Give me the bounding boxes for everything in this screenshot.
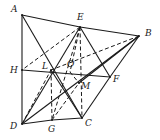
segment-ae	[22, 15, 80, 27]
vertex-b	[138, 35, 140, 37]
label-l: L	[41, 61, 48, 71]
segment-gm	[52, 83, 79, 120]
vertex-m	[78, 82, 80, 84]
segment-lc	[51, 70, 82, 118]
diagram-canvas: A E B H L O F M D G C	[0, 0, 160, 140]
segment-dl	[22, 70, 51, 124]
vertex-g	[51, 119, 53, 121]
vertex-c	[81, 117, 83, 119]
label-f: F	[112, 74, 120, 84]
segment-bf	[110, 36, 139, 77]
dashed-lines	[22, 27, 139, 124]
segment-lg	[51, 70, 52, 120]
label-a: A	[10, 4, 18, 14]
label-c: C	[85, 118, 92, 128]
vertex-a	[21, 14, 23, 16]
label-m: M	[80, 81, 91, 91]
label-b: B	[144, 28, 152, 38]
vertex-d	[21, 123, 23, 125]
label-g: G	[48, 124, 55, 134]
vertex-e	[79, 26, 81, 28]
vertex-f	[109, 76, 111, 78]
geometry-diagram: A E B H L O F M D G C	[0, 0, 160, 140]
label-o: O	[67, 59, 75, 69]
vertex-h	[21, 69, 23, 71]
segment-ec	[80, 27, 82, 118]
segment-cg	[52, 118, 82, 120]
vertex-l	[50, 69, 52, 71]
label-e: E	[76, 12, 84, 22]
label-d: D	[9, 121, 17, 131]
label-h: H	[9, 65, 18, 75]
segment-ed	[22, 27, 80, 124]
segment-eb	[80, 27, 139, 36]
